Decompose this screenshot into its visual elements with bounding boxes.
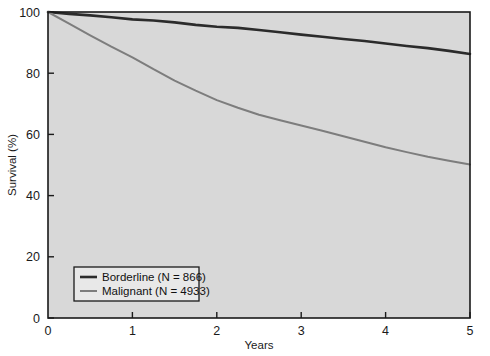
y-tick-label-100: 100 bbox=[19, 6, 40, 20]
chart-legend: Borderline (N = 866) Malignant (N = 4933… bbox=[74, 267, 210, 301]
x-tick-label-0: 0 bbox=[45, 324, 52, 338]
x-tick-label-5: 5 bbox=[467, 324, 474, 338]
chart-canvas: 020406080100 012345 Years Survival (%) B… bbox=[0, 0, 490, 356]
y-tick-label-80: 80 bbox=[26, 67, 40, 81]
legend-label-malignant: Malignant (N = 4933) bbox=[102, 285, 210, 297]
y-axis-title: Survival (%) bbox=[6, 134, 18, 196]
survival-curve-figure: 020406080100 012345 Years Survival (%) B… bbox=[0, 0, 490, 356]
x-tick-label-4: 4 bbox=[382, 324, 389, 338]
y-tick-label-0: 0 bbox=[33, 312, 40, 326]
legend-label-borderline: Borderline (N = 866) bbox=[102, 271, 206, 283]
x-tick-label-3: 3 bbox=[298, 324, 305, 338]
y-tick-label-40: 40 bbox=[26, 189, 40, 203]
y-tick-label-60: 60 bbox=[26, 128, 40, 142]
x-tick-label-1: 1 bbox=[129, 324, 136, 338]
x-tick-label-2: 2 bbox=[213, 324, 220, 338]
x-axis-title: Years bbox=[245, 339, 274, 351]
y-tick-label-20: 20 bbox=[26, 250, 40, 264]
